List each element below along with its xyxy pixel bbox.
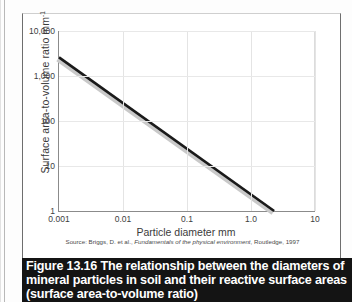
x-tick-label: 10 [310,214,319,224]
gridline-horizontal [59,166,315,167]
gridline-horizontal [59,121,315,122]
figure-caption-number: Figure 13.16 [26,259,97,273]
source-suffix: , Routledge, 1997 [251,238,300,245]
series-line [59,57,274,211]
page-edge-line [4,0,5,302]
series-shadow-line [58,59,273,213]
x-tick-label: 0.1 [181,214,193,224]
y-tick-label: 10 [46,161,55,171]
y-tick-label: 1 [50,206,55,216]
y-tick-label: 100 [41,116,55,126]
figure-card: Surface area-to-volume ratio mm-1 0.0010… [22,13,341,258]
plot-area: 0.0010.010.11.0101101001,00010,000 [58,31,315,212]
gridline-horizontal [59,31,315,32]
x-axis-title: Particle diameter mm [58,226,314,238]
figure-root: Surface area-to-volume ratio mm-1 0.0010… [0,0,352,302]
y-tick-label: 10,000 [29,26,55,36]
chart-block: Surface area-to-volume ratio mm-1 0.0010… [23,14,342,229]
source-prefix: Source: Briggs, D. et al., [66,238,135,245]
y-tick-label: 1,000 [34,71,55,81]
figure-caption-bar: Figure 13.16 The relationship between th… [22,258,352,302]
gridline-horizontal [59,76,315,77]
page-edge-outer-line [0,0,1,302]
figure-caption-text: Figure 13.16 The relationship between th… [26,260,348,302]
y-axis-title-exponent: -1 [39,11,46,17]
x-tick-label: 0.01 [115,214,132,224]
source-title: Fundamentals of the physical environment [134,238,250,245]
source-note: Source: Briggs, D. et al., Fundamentals … [23,238,342,245]
x-tick-label: 1.0 [245,214,257,224]
gridline-vertical [315,31,316,211]
y-axis-title-text: Surface area-to-volume ratio mm [39,17,51,174]
